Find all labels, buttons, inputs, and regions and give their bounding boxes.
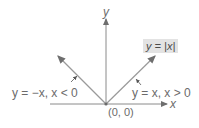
y-axis-label: y xyxy=(103,6,109,18)
right-branch-label: y = x, x > 0 xyxy=(132,87,191,99)
function-title-box: y = |x| xyxy=(143,39,178,53)
left-pointer-arrow xyxy=(71,76,77,82)
right-pointer-arrow xyxy=(136,79,141,85)
left-branch-label: y = −x, x < 0 xyxy=(12,87,78,99)
origin-label: (0, 0) xyxy=(108,107,134,118)
